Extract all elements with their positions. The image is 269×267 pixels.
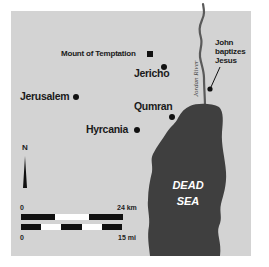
hyrcania-marker — [134, 127, 140, 133]
label-jericho: Jericho — [134, 68, 169, 79]
label-hyrcania: Hyrcania — [86, 124, 128, 135]
scale-km-end: 24 km — [117, 204, 137, 211]
sea-label-line: DEAD — [168, 178, 208, 194]
qumran-marker — [169, 114, 175, 120]
map-panel: Mount of Temptation Jericho Jerusalem Qu… — [0, 0, 269, 267]
label-mount-of-temptation: Mount of Temptation — [61, 50, 136, 58]
annotation-line: John — [215, 38, 245, 47]
scale-bar-mi — [21, 224, 122, 230]
scale-km-start: 0 — [20, 204, 24, 211]
north-label: N — [22, 143, 28, 152]
scale-bar-km — [21, 214, 123, 220]
scale-mi-end: 15 mi — [118, 234, 136, 241]
annotation-john-baptizes-jesus: John baptizes Jesus — [215, 38, 245, 65]
label-qumran: Qumran — [134, 101, 172, 112]
annotation-line: baptizes — [215, 47, 245, 56]
label-jordan-river: Jordan River — [192, 61, 200, 97]
mount-of-temptation-marker — [147, 51, 153, 57]
jerusalem-marker — [73, 94, 79, 100]
baptism-site-marker — [207, 86, 212, 91]
annotation-line: Jesus — [215, 56, 245, 65]
sea-label-line: SEA — [168, 194, 208, 210]
label-dead-sea: DEAD SEA — [168, 178, 208, 210]
label-jerusalem: Jerusalem — [20, 91, 69, 102]
scale-mi-start: 0 — [20, 234, 24, 241]
